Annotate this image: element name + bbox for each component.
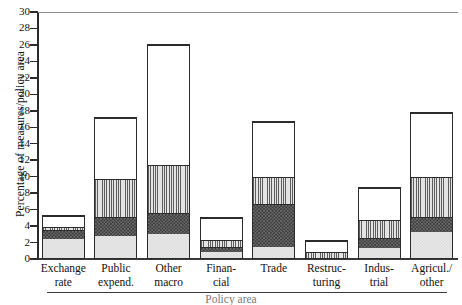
y-axis-tick [30,44,38,46]
category-label-line: Restruc- [300,262,353,276]
y-axis-tick-label: 18 [8,105,30,116]
category-label-line: macro [142,276,195,290]
bar-segment-1 [148,234,189,258]
bar-industrial [358,187,401,259]
bar-segment-4 [201,218,242,240]
category-label-line: expend. [90,276,143,290]
y-axis-tick [30,176,38,178]
category-label-line: cial [195,276,248,290]
x-axis-category-label: Restruc-turing [300,262,353,289]
y-axis-tick [30,77,38,79]
y-axis-tick-label: 0 [8,253,30,264]
category-label-line: turing [300,276,353,290]
x-axis-title: Policy area [0,293,462,305]
bar-segment-1 [359,248,400,258]
category-label-line: Indus- [353,262,406,276]
bar-other-macro [147,44,190,259]
y-axis-tick-label: 10 [8,171,30,182]
y-axis: 302826242220181614121086420 [0,0,30,303]
bar-exchange-rate [42,215,85,259]
y-axis-tick-label: 22 [8,72,30,83]
category-label-row: ExchangeratePublicexpend.OthermacroFinan… [37,262,458,292]
bar-segment-2 [253,204,294,247]
bar-public-expend [94,117,137,259]
y-axis-tick-label: 12 [8,154,30,165]
y-axis-tick-label: 26 [8,39,30,50]
plot-area [37,12,458,259]
bar-segment-3 [148,165,189,213]
bar-segment-3 [306,252,347,258]
x-axis-category-label: Indus-trial [353,262,406,289]
bar-segment-1 [253,247,294,258]
bar-segment-3 [411,177,452,217]
bar-segment-4 [411,113,452,176]
bar-segment-2 [411,217,452,232]
y-axis-tick [30,143,38,145]
bar-segment-4 [253,122,294,177]
bar-segment-2 [43,230,84,239]
y-axis-tick-label: 30 [8,6,30,17]
bar-agricul-other [410,112,453,259]
y-axis-tick [30,192,38,194]
bar-segment-2 [359,238,400,248]
bar-segment-3 [95,179,136,216]
y-axis-tick [30,242,38,244]
y-axis-tick [30,110,38,112]
bar-segment-4 [148,45,189,165]
x-axis-category-label: Exchangerate [37,262,90,289]
y-axis-tick-label: 20 [8,88,30,99]
x-axis-category-label: Finan-cial [195,262,248,289]
y-axis-tick-label: 4 [8,220,30,231]
bar-restructuring [305,240,348,259]
category-label-line: other [405,276,458,290]
x-axis-category-label: Agricul./other [405,262,458,289]
bar-segment-1 [43,239,84,258]
x-axis-category-label: Trade [248,262,301,276]
y-axis-tick [30,94,38,96]
bar-segment-4 [43,216,84,227]
y-axis-tick-label: 8 [8,187,30,198]
bar-trade [252,121,295,259]
category-label-line: Agricul./ [405,262,458,276]
bar-segment-1 [95,236,136,258]
category-label-line: Public [90,262,143,276]
bar-segment-1 [411,232,452,258]
y-axis-tick-label: 2 [8,237,30,248]
bar-segment-3 [359,220,400,238]
bar-segment-2 [95,217,136,236]
y-axis-tick [30,225,38,227]
y-axis-tick [30,258,38,260]
y-axis-tick [30,61,38,63]
bar-segment-3 [201,240,242,247]
bar-segment-2 [148,213,189,233]
bar-segment-4 [95,118,136,179]
bar-segment-1 [201,252,242,258]
y-axis-tick-label: 16 [8,121,30,132]
x-axis-category-label: Publicexpend. [90,262,143,289]
category-label-line: trial [353,276,406,290]
category-label-line: rate [37,276,90,290]
category-label-line: Exchange [37,262,90,276]
y-axis-tick [30,11,38,13]
y-axis-tick-label: 6 [8,204,30,215]
category-label-line: Finan- [195,262,248,276]
category-label-line: Trade [248,262,301,276]
bar-segment-3 [253,177,294,204]
bar-segment-4 [359,188,400,220]
bar-financial [200,217,243,259]
y-axis-tick-label: 14 [8,138,30,149]
bar-segment-4 [306,241,347,252]
y-axis-tick [30,159,38,161]
y-axis-tick [30,28,38,30]
y-axis-tick-label: 24 [8,55,30,66]
y-axis-tick [30,127,38,129]
y-axis-tick-label: 28 [8,22,30,33]
y-axis-tick [30,209,38,211]
category-label-line: Other [142,262,195,276]
x-axis-category-label: Othermacro [142,262,195,289]
